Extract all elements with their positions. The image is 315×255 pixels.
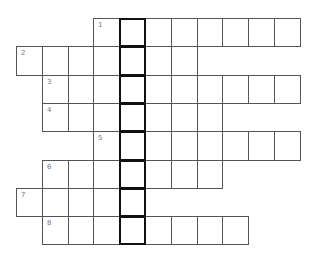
crossword-cell-highlighted[interactable] (119, 75, 146, 104)
clue-number: 5 (98, 135, 102, 142)
crossword-cell[interactable]: 8 (42, 216, 69, 245)
clue-number: 1 (98, 22, 102, 29)
crossword-cell[interactable] (197, 75, 223, 104)
crossword-cell[interactable]: 5 (93, 131, 120, 161)
crossword-cell[interactable] (93, 216, 120, 245)
crossword-cell[interactable] (197, 18, 223, 47)
clue-number: 6 (47, 164, 51, 171)
crossword-cell[interactable] (93, 46, 120, 76)
clue-number: 2 (21, 50, 25, 57)
crossword-cell[interactable] (171, 216, 198, 245)
crossword-cell[interactable] (68, 216, 94, 245)
crossword-grid: 12345678 (0, 0, 315, 255)
crossword-cell[interactable] (171, 46, 198, 76)
crossword-cell[interactable] (248, 18, 275, 47)
clue-number: 7 (21, 192, 25, 199)
crossword-cell[interactable] (93, 188, 120, 217)
crossword-cell[interactable] (42, 188, 69, 217)
crossword-cell[interactable] (145, 46, 172, 76)
crossword-cell[interactable] (274, 131, 301, 161)
crossword-cell[interactable] (222, 131, 249, 161)
crossword-cell[interactable] (197, 131, 223, 161)
crossword-cell[interactable] (145, 216, 172, 245)
crossword-cell-highlighted[interactable] (119, 103, 146, 132)
crossword-cell[interactable] (222, 18, 249, 47)
crossword-cell[interactable]: 6 (42, 160, 69, 189)
crossword-cell[interactable] (197, 216, 223, 245)
crossword-cell[interactable] (145, 160, 172, 189)
clue-number: 3 (47, 79, 51, 86)
crossword-cell[interactable] (68, 46, 94, 76)
crossword-cell[interactable] (197, 160, 223, 189)
crossword-cell[interactable] (171, 103, 198, 132)
crossword-cell[interactable] (68, 103, 94, 132)
crossword-cell[interactable] (93, 160, 120, 189)
crossword-cell[interactable] (222, 75, 249, 104)
crossword-cell[interactable] (68, 75, 94, 104)
crossword-cell[interactable] (274, 18, 301, 47)
crossword-cell[interactable] (171, 18, 198, 47)
crossword-cell-highlighted[interactable] (119, 160, 146, 189)
crossword-cell[interactable] (145, 18, 172, 47)
crossword-cell[interactable] (171, 160, 198, 189)
crossword-cell[interactable] (248, 75, 275, 104)
crossword-cell[interactable] (171, 131, 198, 161)
crossword-cell[interactable]: 7 (16, 188, 43, 217)
crossword-cell[interactable] (93, 75, 120, 104)
clue-number: 4 (47, 107, 51, 114)
crossword-cell[interactable] (171, 75, 198, 104)
crossword-cell[interactable]: 1 (93, 18, 120, 47)
crossword-cell[interactable] (197, 103, 223, 132)
crossword-cell[interactable] (145, 75, 172, 104)
crossword-cell[interactable] (274, 75, 301, 104)
crossword-cell[interactable] (145, 103, 172, 132)
crossword-cell[interactable] (93, 103, 120, 132)
crossword-cell[interactable] (68, 160, 94, 189)
crossword-cell-highlighted[interactable] (119, 188, 146, 217)
crossword-cell[interactable]: 3 (42, 75, 69, 104)
crossword-cell[interactable]: 4 (42, 103, 69, 132)
crossword-cell[interactable] (145, 131, 172, 161)
crossword-cell[interactable] (68, 188, 94, 217)
crossword-cell-highlighted[interactable] (119, 131, 146, 161)
crossword-cell[interactable] (222, 216, 249, 245)
crossword-cell-highlighted[interactable] (119, 46, 146, 76)
crossword-cell[interactable] (42, 46, 69, 76)
crossword-cell-highlighted[interactable] (119, 216, 146, 245)
crossword-cell[interactable] (248, 131, 275, 161)
crossword-cell-highlighted[interactable] (119, 18, 146, 47)
clue-number: 8 (47, 220, 51, 227)
crossword-cell[interactable]: 2 (16, 46, 43, 76)
